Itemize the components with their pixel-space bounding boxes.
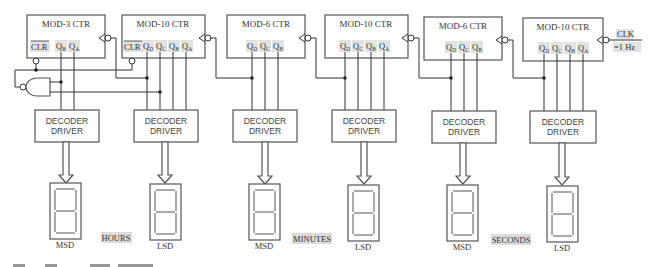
display-label: MSD	[255, 241, 273, 251]
svg-text:DRIVER: DRIVER	[150, 126, 182, 136]
clock-bubble-icon	[205, 35, 211, 41]
group-label-seconds: SECONDS	[491, 234, 531, 245]
svg-text:DRIVER: DRIVER	[51, 126, 83, 136]
display-label: LSD	[157, 241, 173, 251]
svg-text:DECODER: DECODER	[46, 116, 89, 126]
clock-bubble-icon	[408, 35, 414, 41]
display-label: LSD	[355, 242, 371, 252]
seven-segment-display-minutes-lsd: LSD	[348, 185, 379, 252]
clock-bubble-icon	[305, 35, 311, 41]
svg-text:DECODER: DECODER	[443, 117, 486, 127]
svg-text:DECODER: DECODER	[542, 117, 585, 127]
clock-frequency: =1 Hz	[614, 42, 635, 52]
clear-logic	[15, 64, 162, 96]
decoder-driver-seconds-tens: DECODER DRIVER	[432, 111, 496, 143]
clock-bubble-icon	[502, 37, 508, 43]
bus-arrow-icon	[258, 142, 272, 184]
and-gate-icon	[26, 78, 50, 96]
clr-pin-label: CLR	[31, 42, 48, 52]
digital-clock-diagram: MOD-3 CTR CLR QB QA MOD-10 CTR CLR QD QC…	[0, 0, 657, 267]
bus-arrow-icon	[456, 143, 470, 184]
bus-arrow-icon	[59, 142, 73, 183]
bus-arrow-icon	[158, 142, 172, 183]
seven-segment-display-hours-lsd: LSD	[150, 184, 181, 251]
svg-text:DECODER: DECODER	[343, 116, 386, 126]
bus-arrows	[59, 142, 569, 185]
counter-minutes-units: MOD-10 CTR QD QC QB QA	[325, 15, 414, 58]
seven-segment-display-hours-msd: MSD	[50, 183, 81, 250]
svg-text:DRIVER: DRIVER	[249, 126, 281, 136]
display-label: LSD	[554, 243, 570, 253]
counter-hours-units: MOD-10 CTR CLR QD QC QB QA	[122, 15, 211, 64]
clock-input: CLK =1 Hz	[609, 29, 642, 52]
decoder-driver-minutes-tens: DECODER DRIVER	[233, 110, 297, 142]
counter-hours-tens: MOD-3 CTR CLR QB QA	[27, 15, 111, 64]
svg-text:MINUTES: MINUTES	[293, 234, 331, 244]
svg-text:DECODER: DECODER	[145, 116, 188, 126]
counter-title: MOD-6 CTR	[439, 21, 487, 31]
counter-title: MOD-10 CTR	[340, 19, 393, 29]
output-buses	[61, 52, 583, 111]
svg-text:SECONDS: SECONDS	[492, 235, 531, 245]
counter-seconds-tens: MOD-6 CTR QD QC QB	[424, 17, 508, 60]
counter-title: MOD-6 CTR	[242, 19, 290, 29]
seven-segment-display-seconds-lsd: LSD	[547, 186, 578, 253]
bus-arrow-icon	[357, 142, 371, 184]
counter-minutes-tens: MOD-6 CTR QD QC QB	[227, 15, 311, 58]
gate-output-bubble-icon	[20, 84, 26, 90]
clock-label: CLK	[617, 29, 635, 39]
clr-pin-label: CLR	[124, 42, 141, 52]
decoder-driver-hours-units: DECODER DRIVER	[134, 110, 198, 142]
display-label: MSD	[56, 240, 74, 250]
clr-bubble-icon	[129, 58, 135, 64]
clr-bubble-icon	[33, 58, 39, 64]
svg-text:HOURS: HOURS	[102, 233, 131, 243]
decoder-driver-minutes-units: DECODER DRIVER	[332, 110, 396, 142]
counter-title: MOD-3 CTR	[42, 19, 90, 29]
seven-segment-display-minutes-msd: MSD	[249, 184, 280, 251]
clock-bubble-icon	[105, 35, 111, 41]
display-label: MSD	[453, 242, 471, 252]
decoder-driver-seconds-units: DECODER DRIVER	[530, 111, 596, 143]
group-label-minutes: MINUTES	[292, 233, 332, 244]
group-label-hours: HOURS	[101, 232, 132, 243]
counter-title: MOD-10 CTR	[137, 19, 190, 29]
bus-arrow-icon	[555, 143, 569, 185]
svg-text:DRIVER: DRIVER	[448, 127, 480, 137]
seven-segment-display-seconds-msd: MSD	[447, 185, 478, 252]
svg-text:DECODER: DECODER	[244, 116, 287, 126]
counter-title: MOD-10 CTR	[537, 22, 590, 32]
decoder-driver-hours-tens: DECODER DRIVER	[35, 110, 99, 142]
svg-text:DRIVER: DRIVER	[348, 126, 380, 136]
counter-seconds-units: MOD-10 CTR QD QC QB QA	[523, 18, 609, 61]
clock-bubble-icon	[603, 37, 609, 43]
svg-text:DRIVER: DRIVER	[547, 127, 579, 137]
